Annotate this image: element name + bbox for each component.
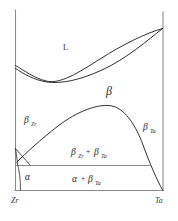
label-beta-zr-subscript: Zr (31, 121, 37, 127)
mix-plus-sign: + (86, 147, 90, 156)
mix-beta-ta-glyph: β (93, 147, 99, 157)
label-beta-zr: β Zr (23, 115, 37, 127)
alpha-mix-plus-sign: + (81, 174, 85, 183)
mix-beta-zr-glyph: β (70, 147, 76, 157)
label-alpha-plus-beta-ta: α + β Ta (72, 174, 101, 186)
label-beta-glyph: β (105, 84, 112, 98)
alpha-solvus-curve (17, 163, 21, 191)
label-beta-zr-plus-beta-ta: β Zr + β Ta (70, 147, 107, 159)
label-liquid: L (63, 43, 68, 52)
mix-beta-ta-subscript: Ta (101, 153, 107, 159)
liquidus-curve (16, 29, 163, 82)
phase-diagram-page: L β β Zr β Ta β Zr + β Ta α α + β Ta Zr … (0, 0, 178, 221)
label-beta-ta-glyph: β (142, 122, 148, 132)
mix-beta-zr-subscript: Zr (78, 153, 84, 159)
label-alpha: α (25, 172, 31, 182)
phase-diagram-figure: L β β Zr β Ta β Zr + β Ta α α + β Ta Zr … (0, 0, 178, 221)
axis-label-ta: Ta (155, 196, 163, 205)
axis-label-zr: Zr (11, 196, 19, 205)
label-beta: β (105, 84, 112, 98)
alpha-mix-beta-glyph: β (87, 174, 93, 184)
label-beta-zr-glyph: β (23, 115, 29, 125)
alpha-mix-beta-subscript: Ta (95, 180, 101, 186)
label-beta-ta: β Ta (142, 122, 156, 134)
label-beta-ta-subscript: Ta (150, 128, 156, 134)
alpha-mix-alpha-glyph: α (72, 174, 78, 184)
